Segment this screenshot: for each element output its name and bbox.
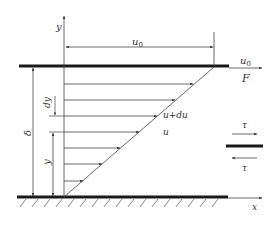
u-plus-du-label: u+du	[163, 110, 188, 120]
u-label: u	[163, 127, 169, 137]
y-dim-label: y	[41, 159, 52, 166]
u0-right-label: u0	[240, 55, 251, 68]
gap-label: δ	[22, 130, 33, 136]
tau-bottom-label: τ	[242, 163, 248, 173]
couette-flow-diagram: y u0 u0 F δ dy y u+du u τ τ x	[0, 0, 276, 228]
x-axis-label: x	[252, 202, 257, 212]
tau-top-label: τ	[242, 120, 248, 130]
dy-label: dy	[42, 96, 52, 108]
force-label: F	[241, 72, 250, 85]
y-axis-label: y	[55, 21, 62, 32]
velocity-arrows	[64, 84, 193, 181]
ground-hatching	[20, 199, 218, 207]
